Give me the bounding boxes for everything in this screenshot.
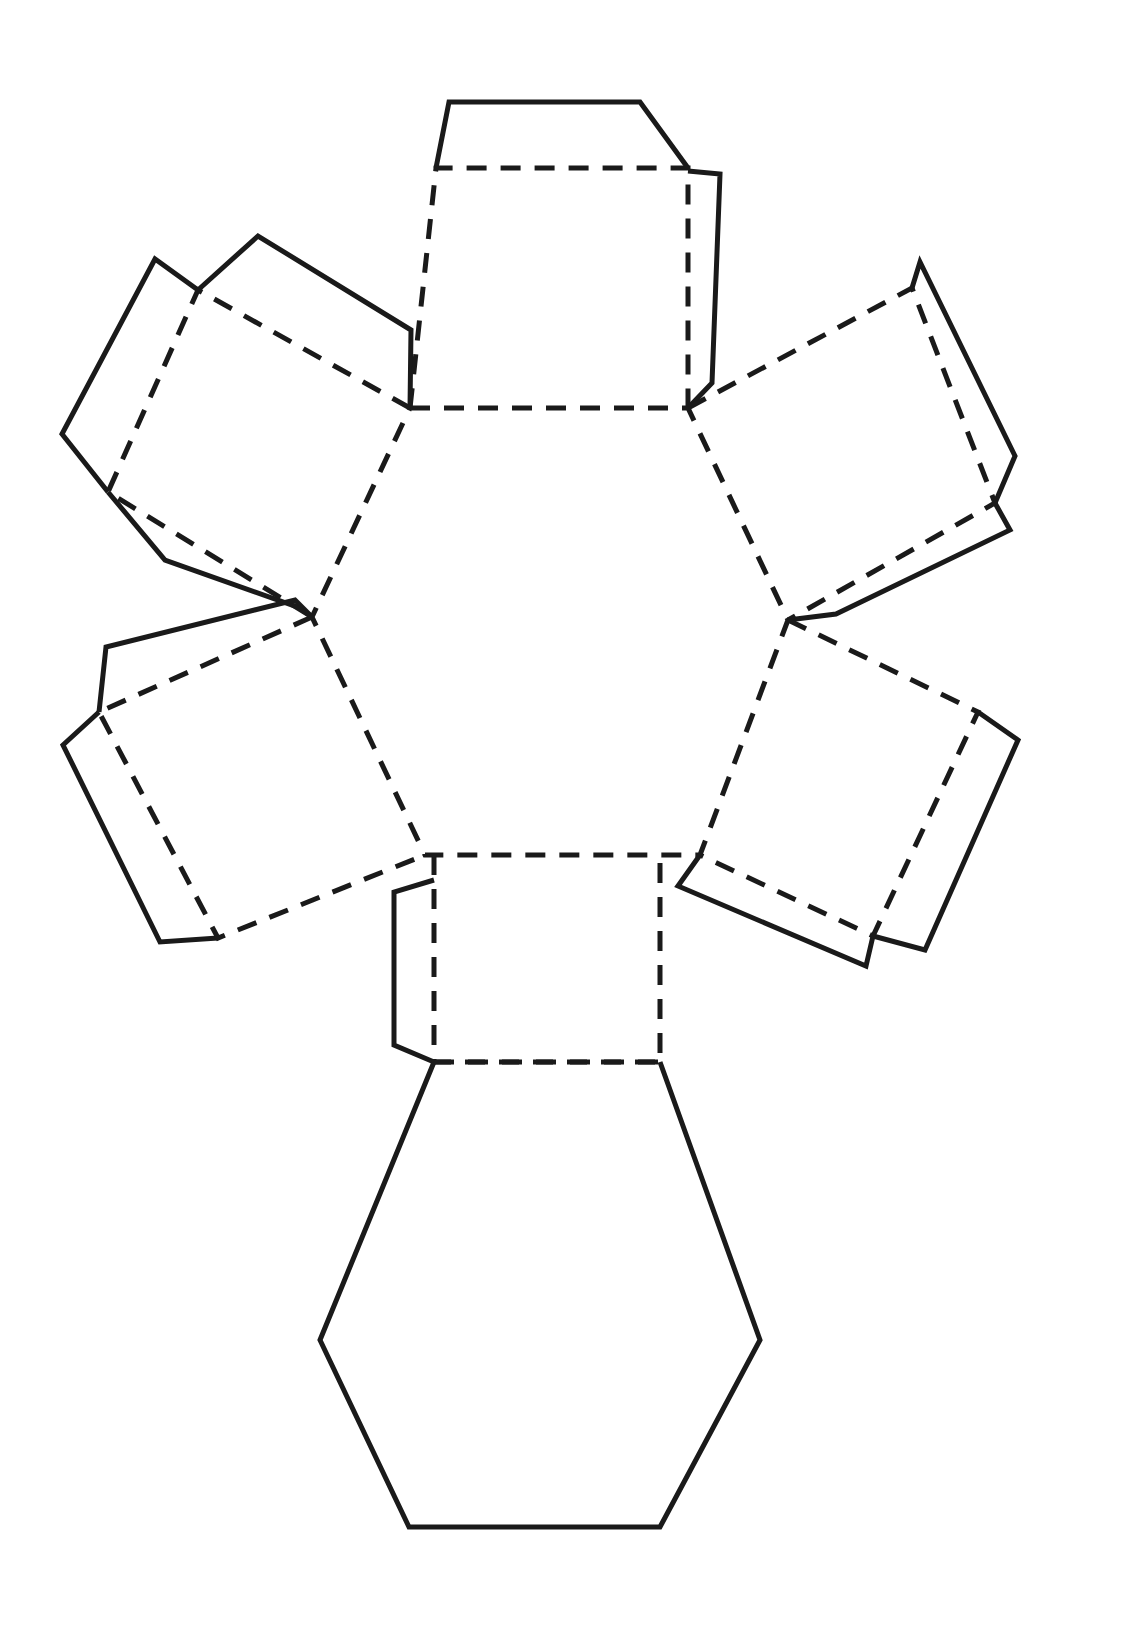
- hexagonal-prism-net-drawing: [0, 0, 1135, 1652]
- square-top-fill: [410, 168, 688, 408]
- square-bottom-fill: [434, 855, 660, 1062]
- net-page: [0, 0, 1135, 1652]
